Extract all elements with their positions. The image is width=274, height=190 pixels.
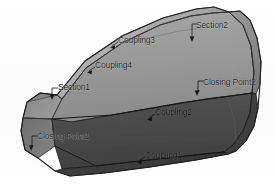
annotation-coupling4[interactable]: Coupling4 (95, 61, 132, 70)
solid-body[interactable] (21, 7, 261, 176)
cad-viewport[interactable]: Section2 Coupling3 Coupling4 Section1 Cl… (0, 0, 274, 190)
annotation-section2[interactable]: Section2 (196, 21, 228, 30)
annotation-closing-point1[interactable]: Closing Point1 (37, 132, 90, 141)
annotation-section1[interactable]: Section1 (58, 83, 90, 92)
annotation-closing-point2[interactable]: Closing Point2 (203, 78, 256, 87)
annotation-coupling1[interactable]: Coupling1 (145, 151, 182, 160)
model-canvas[interactable] (0, 0, 274, 190)
annotation-coupling3[interactable]: Coupling3 (118, 36, 155, 45)
annotation-coupling2[interactable]: Coupling2 (155, 108, 192, 117)
